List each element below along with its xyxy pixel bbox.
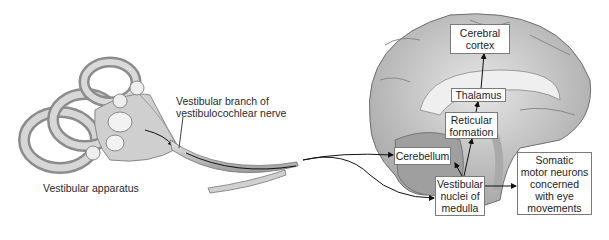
- somatic-motor-neurons-box: Somatic motor neurons concerned with eye…: [517, 152, 592, 215]
- vestibular-branch-label: Vestibular branch of vestibulocochlear n…: [176, 95, 286, 119]
- vestibular-apparatus-illustration: [24, 62, 180, 168]
- nerve-leader-line: [179, 117, 183, 148]
- reticular-formation-box: Reticular formation: [445, 112, 498, 139]
- cerebellum-box: Cerebellum: [394, 147, 451, 165]
- cerebral-cortex-box: Cerebral cortex: [450, 24, 510, 54]
- vestibular-apparatus-label: Vestibular apparatus: [43, 182, 139, 194]
- thalamus-box: Thalamus: [451, 88, 506, 102]
- vestibular-nuclei-box: Vestibular nuclei of medulla: [435, 176, 485, 216]
- vestibular-nerve-illustration: [170, 117, 298, 193]
